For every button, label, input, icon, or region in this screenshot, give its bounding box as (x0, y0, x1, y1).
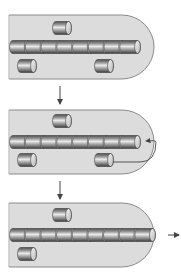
panel-stage-1 (9, 15, 154, 79)
panel-stage-3 (9, 203, 179, 267)
free-subunit (53, 115, 72, 128)
free-subunit (95, 60, 114, 73)
filament (10, 136, 141, 149)
free-subunit (95, 154, 114, 167)
panels (9, 15, 179, 267)
free-subunit (53, 209, 72, 222)
diagram-canvas (0, 0, 181, 279)
free-subunit (53, 22, 72, 35)
filament (10, 229, 156, 242)
filament-subunit (120, 41, 141, 54)
filament-subunit (120, 136, 141, 149)
free-subunit (18, 248, 37, 261)
filament-subunit (135, 229, 156, 242)
panel-stage-2 (9, 110, 156, 174)
filament (10, 41, 141, 54)
free-subunit (18, 154, 37, 167)
free-subunit (18, 60, 37, 73)
